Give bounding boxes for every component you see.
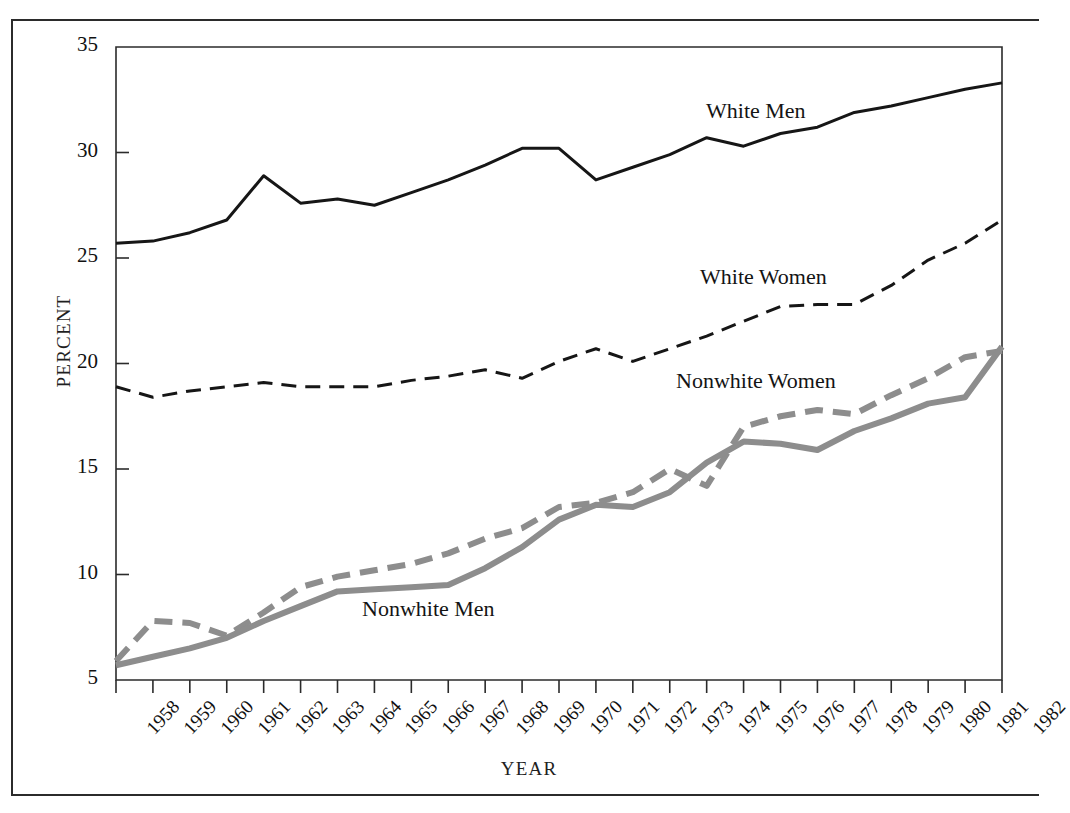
series-label-white-women: White Women xyxy=(700,264,827,290)
y-tick-label: 35 xyxy=(58,32,98,57)
y-tick-label: 15 xyxy=(58,454,98,479)
y-tick-label: 25 xyxy=(58,243,98,268)
y-tick-label: 20 xyxy=(58,349,98,374)
y-axis-title: PERCENT xyxy=(53,271,75,411)
series-line-white-women xyxy=(116,220,1002,397)
y-tick-label: 30 xyxy=(58,138,98,163)
plot-frame xyxy=(116,47,1002,680)
y-tick-label: 5 xyxy=(58,665,98,690)
x-axis-title: YEAR xyxy=(469,758,589,780)
series-line-nonwhite-women xyxy=(116,351,1002,661)
series-label-nonwhite-men: Nonwhite Men xyxy=(362,596,495,622)
series-label-nonwhite-women: Nonwhite Women xyxy=(676,368,836,394)
series-label-white-men: White Men xyxy=(706,98,806,124)
y-tick-label: 10 xyxy=(58,560,98,585)
series-line-white-men xyxy=(116,83,1002,243)
